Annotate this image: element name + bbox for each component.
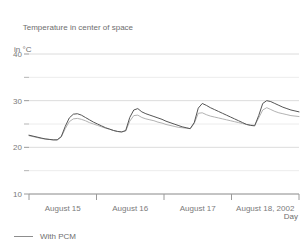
x-tick-labels-group: August 15August 16August 17August 18, 20… [45, 204, 295, 213]
plot-area: 10203040 August 15August 16August 17Augu… [0, 0, 302, 248]
series-line-without-pcm [29, 101, 299, 140]
x-axis-group [29, 194, 299, 200]
y-tick-label: 10 [13, 190, 22, 199]
chart-legend: With PCM [14, 232, 76, 241]
x-axis-label: Day [284, 212, 298, 221]
legend-label-with-pcm: With PCM [40, 232, 76, 241]
y-tick-label: 30 [13, 97, 22, 106]
series-lines-group [29, 101, 299, 140]
x-tick-label: August 16 [112, 204, 149, 213]
temperature-chart: Temperature in center of space in °C 102… [0, 0, 302, 248]
x-tick-label: August 15 [45, 204, 82, 213]
y-tick-label: 40 [13, 50, 22, 59]
y-tick-labels-group: 10203040 [13, 50, 29, 199]
x-tick-label: August 17 [180, 204, 217, 213]
legend-swatch-with-pcm [14, 236, 33, 237]
y-tick-label: 20 [13, 143, 22, 152]
